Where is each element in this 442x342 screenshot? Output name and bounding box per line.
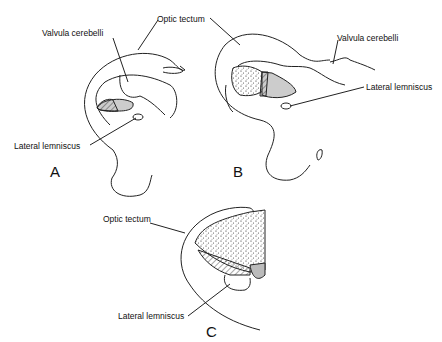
- panel-label-a: A: [50, 163, 60, 180]
- label-c-tectum: Optic tectum: [103, 214, 151, 224]
- panel-a-drawing: [85, 20, 185, 196]
- label-a-valvula: Valvula cerebelli: [42, 28, 103, 38]
- label-c-lemniscus: Lateral lemniscus: [118, 311, 184, 321]
- label-a-lemniscus: Lateral lemniscus: [14, 141, 80, 151]
- diagram-canvas: [0, 0, 442, 342]
- label-a-tectum: Optic tectum: [157, 14, 205, 24]
- label-b-valvula: Valvula cerebelli: [337, 33, 398, 43]
- panel-label-b: B: [233, 163, 243, 180]
- label-b-lemniscus: Lateral lemniscus: [366, 82, 432, 92]
- panel-label-c: C: [206, 323, 217, 340]
